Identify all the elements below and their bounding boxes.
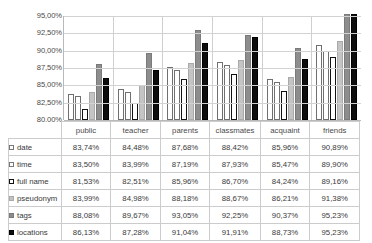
- table-row: time83,50%83,99%87,19%87,93%85,47%89,90%: [9, 156, 360, 173]
- bar-date-public: [68, 94, 74, 120]
- bar-full-name-public: [82, 109, 88, 120]
- y-axis-tick-label: 90,00%: [18, 47, 62, 55]
- table-cell: 87,19%: [160, 156, 210, 173]
- series-label: date: [17, 143, 32, 152]
- bar-full-name-friends: [330, 57, 336, 121]
- table-cell: 88,08%: [61, 207, 111, 224]
- legend-swatch-icon: [9, 179, 14, 184]
- row-label-cell-pseudonym: pseudonym: [9, 190, 62, 207]
- row-label-cell-tags: tags: [9, 207, 62, 224]
- table-cell: 85,47%: [260, 156, 310, 173]
- table-body: date83,74%84,48%87,68%88,42%85,96%90,89%…: [9, 139, 360, 241]
- table-cell: 92,25%: [210, 207, 260, 224]
- bar-full-name-acquaint: [281, 91, 287, 120]
- bar-locations-parents: [202, 43, 208, 120]
- gridline: [64, 68, 361, 69]
- table-cell: 95,23%: [310, 207, 360, 224]
- bar-full-name-teacher: [132, 103, 138, 120]
- gridline: [64, 51, 361, 52]
- table-row: date83,74%84,48%87,68%88,42%85,96%90,89%: [9, 139, 360, 156]
- row-label-cell-full-name: full name: [9, 173, 62, 190]
- table-cell: 87,68%: [160, 139, 210, 156]
- bar-pseudonym-parents: [188, 63, 194, 120]
- legend-swatch-icon: [9, 145, 14, 150]
- table-cell: 95,23%: [310, 224, 360, 241]
- plot-area: [63, 16, 360, 120]
- table-cell: 91,91%: [210, 224, 260, 241]
- bar-date-classmates: [217, 62, 223, 120]
- bar-chart: 95,00%92,50%90,00%87,50%85,00%82,50%80,0…: [0, 0, 372, 125]
- y-axis-tick-label: 92,50%: [18, 29, 62, 37]
- y-axis-tick-label: 82,50%: [18, 99, 62, 107]
- bar-tags-parents: [195, 30, 201, 120]
- series-label: tags: [17, 211, 32, 220]
- chart-with-data-table: 95,00%92,50%90,00%87,50%85,00%82,50%80,0…: [0, 0, 372, 243]
- legend-swatch-icon: [9, 162, 14, 167]
- bar-time-classmates: [224, 65, 230, 120]
- table-cell: 87,28%: [111, 224, 161, 241]
- table-cell: 84,24%: [260, 173, 310, 190]
- table-cell: 91,38%: [310, 190, 360, 207]
- row-label-cell-locations: locations: [9, 224, 62, 241]
- column-header-public: public: [61, 122, 111, 139]
- gridline: [64, 33, 361, 34]
- series-label: time: [17, 160, 32, 169]
- gridline: [64, 103, 361, 104]
- bar-date-parents: [167, 67, 173, 120]
- table-cell: 90,89%: [310, 139, 360, 156]
- bar-time-acquaint: [274, 82, 280, 120]
- table-cell: 85,96%: [160, 173, 210, 190]
- table-cell: 86,21%: [260, 190, 310, 207]
- column-header-friends: friends: [310, 122, 360, 139]
- table-cell: 88,67%: [210, 190, 260, 207]
- y-axis-tick-label: 95,00%: [18, 12, 62, 20]
- table-cell: 83,99%: [61, 190, 111, 207]
- table-cell: 90,37%: [260, 207, 310, 224]
- table-cell: 89,16%: [310, 173, 360, 190]
- bar-time-public: [75, 96, 81, 120]
- table-cell: 84,48%: [111, 139, 161, 156]
- gridline: [64, 85, 361, 86]
- table-cell: 83,99%: [111, 156, 161, 173]
- y-axis: 95,00%92,50%90,00%87,50%85,00%82,50%80,0…: [18, 8, 62, 126]
- gridline: [64, 16, 361, 17]
- table-row: locations86,13%87,28%91,04%91,91%88,73%9…: [9, 224, 360, 241]
- table-cell: 83,74%: [61, 139, 111, 156]
- legend-swatch-icon: [9, 196, 14, 201]
- table-corner: [9, 122, 62, 139]
- table-cell: 89,67%: [111, 207, 161, 224]
- bar-locations-teacher: [153, 70, 159, 120]
- table-cell: 89,90%: [310, 156, 360, 173]
- bar-pseudonym-public: [89, 92, 95, 120]
- column-header-teacher: teacher: [111, 122, 161, 139]
- table-cell: 82,51%: [111, 173, 161, 190]
- table-cell: 88,42%: [210, 139, 260, 156]
- row-label-cell-date: date: [9, 139, 62, 156]
- series-label: pseudonym: [17, 194, 57, 203]
- bar-locations-public: [103, 78, 109, 121]
- legend-swatch-icon: [9, 230, 14, 235]
- y-axis-tick-label: 85,00%: [18, 81, 62, 89]
- column-header-parents: parents: [160, 122, 210, 139]
- legend-swatch-icon: [9, 213, 14, 218]
- bar-tags-public: [96, 64, 102, 120]
- series-label: full name: [17, 177, 49, 186]
- bar-time-teacher: [125, 92, 131, 120]
- row-label-cell-time: time: [9, 156, 62, 173]
- table-cell: 91,04%: [160, 224, 210, 241]
- table-cell: 86,70%: [210, 173, 260, 190]
- table-row: pseudonym83,99%84,98%88,18%88,67%86,21%9…: [9, 190, 360, 207]
- table-cell: 81,53%: [61, 173, 111, 190]
- table-row: full name81,53%82,51%85,96%86,70%84,24%8…: [9, 173, 360, 190]
- column-header-acquaint: acquaint: [260, 122, 310, 139]
- table-cell: 88,18%: [160, 190, 210, 207]
- table-cell: 87,93%: [210, 156, 260, 173]
- bar-pseudonym-friends: [337, 41, 343, 120]
- table-row: tags88,08%89,67%93,05%92,25%90,37%95,23%: [9, 207, 360, 224]
- bar-date-teacher: [118, 89, 124, 120]
- table-cell: 83,50%: [61, 156, 111, 173]
- data-table: publicteacherparentsclassmatesacquaintfr…: [8, 121, 360, 241]
- series-label: locations: [17, 228, 48, 237]
- table-cell: 84,98%: [111, 190, 161, 207]
- table-cell: 86,13%: [61, 224, 111, 241]
